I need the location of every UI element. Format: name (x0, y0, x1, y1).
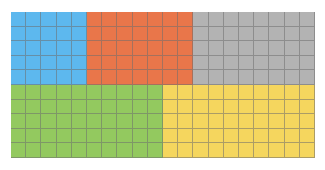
waffle-cell-yellow (209, 114, 224, 129)
waffle-cell-yellow (224, 143, 239, 158)
waffle-cell-gray (209, 70, 224, 85)
waffle-cell-green (72, 100, 87, 115)
waffle-cell-orange (133, 41, 148, 56)
waffle-cell-green (133, 85, 148, 100)
waffle-cell-green (87, 100, 102, 115)
waffle-cell-gray (254, 27, 269, 42)
waffle-cell-orange (133, 27, 148, 42)
waffle-cell-green (11, 143, 26, 158)
waffle-cell-gray (209, 41, 224, 56)
waffle-cell-orange (87, 41, 102, 56)
waffle-cell-orange (163, 27, 178, 42)
waffle-cell-yellow (285, 85, 300, 100)
waffle-cell-gray (300, 41, 315, 56)
waffle-cell-green (72, 85, 87, 100)
waffle-cell-gray (269, 27, 284, 42)
waffle-cell-blue (11, 12, 26, 27)
waffle-cell-blue (57, 70, 72, 85)
waffle-cell-green (133, 129, 148, 144)
waffle-cell-yellow (178, 114, 193, 129)
waffle-cell-yellow (163, 100, 178, 115)
waffle-cell-yellow (224, 114, 239, 129)
waffle-cell-yellow (254, 129, 269, 144)
waffle-cell-green (26, 114, 41, 129)
waffle-cell-blue (11, 41, 26, 56)
waffle-cell-green (87, 85, 102, 100)
waffle-cell-orange (148, 41, 163, 56)
waffle-cell-blue (72, 12, 87, 27)
waffle-cell-orange (87, 56, 102, 71)
waffle-cell-blue (26, 56, 41, 71)
waffle-cell-green (148, 129, 163, 144)
waffle-cell-blue (72, 56, 87, 71)
waffle-cell-gray (300, 27, 315, 42)
waffle-cell-yellow (239, 85, 254, 100)
waffle-cell-yellow (209, 143, 224, 158)
waffle-cell-orange (148, 27, 163, 42)
waffle-cell-green (117, 114, 132, 129)
waffle-cell-yellow (254, 100, 269, 115)
waffle-cell-orange (117, 27, 132, 42)
waffle-cell-yellow (254, 143, 269, 158)
waffle-cell-gray (285, 41, 300, 56)
waffle-cell-blue (57, 12, 72, 27)
waffle-cell-yellow (163, 85, 178, 100)
waffle-cell-gray (285, 12, 300, 27)
waffle-cell-yellow (163, 143, 178, 158)
waffle-cell-gray (239, 56, 254, 71)
waffle-cell-green (57, 114, 72, 129)
waffle-cell-green (26, 85, 41, 100)
waffle-cell-yellow (269, 143, 284, 158)
waffle-cell-orange (102, 27, 117, 42)
waffle-cell-green (102, 85, 117, 100)
waffle-cell-yellow (285, 129, 300, 144)
waffle-cell-green (57, 129, 72, 144)
waffle-cell-gray (300, 56, 315, 71)
waffle-cell-orange (178, 56, 193, 71)
waffle-cell-gray (239, 27, 254, 42)
waffle-cell-yellow (239, 129, 254, 144)
waffle-cell-yellow (300, 114, 315, 129)
waffle-cell-yellow (300, 100, 315, 115)
waffle-cell-yellow (239, 114, 254, 129)
waffle-cell-green (117, 100, 132, 115)
waffle-cell-blue (72, 41, 87, 56)
waffle-cell-blue (11, 56, 26, 71)
waffle-cell-green (117, 143, 132, 158)
waffle-cell-green (102, 129, 117, 144)
waffle-cell-green (72, 129, 87, 144)
waffle-cell-green (148, 100, 163, 115)
waffle-cell-blue (26, 70, 41, 85)
waffle-cell-yellow (300, 143, 315, 158)
waffle-cell-orange (117, 70, 132, 85)
waffle-cell-green (102, 143, 117, 158)
waffle-cell-green (41, 129, 56, 144)
waffle-cell-gray (254, 56, 269, 71)
waffle-cell-yellow (178, 129, 193, 144)
waffle-cell-green (57, 85, 72, 100)
waffle-cell-orange (148, 12, 163, 27)
waffle-cell-green (41, 85, 56, 100)
waffle-cell-gray (254, 70, 269, 85)
waffle-cell-blue (26, 41, 41, 56)
waffle-cell-yellow (163, 129, 178, 144)
waffle-cell-green (41, 100, 56, 115)
waffle-cell-orange (163, 12, 178, 27)
waffle-cell-gray (224, 70, 239, 85)
waffle-cell-orange (163, 41, 178, 56)
waffle-cell-yellow (285, 100, 300, 115)
waffle-cell-yellow (285, 143, 300, 158)
waffle-cell-gray (239, 70, 254, 85)
waffle-cell-orange (102, 70, 117, 85)
waffle-cell-gray (300, 12, 315, 27)
waffle-cell-orange (178, 12, 193, 27)
waffle-cell-yellow (224, 100, 239, 115)
waffle-cell-gray (239, 12, 254, 27)
waffle-cell-blue (41, 12, 56, 27)
waffle-cell-orange (178, 41, 193, 56)
waffle-cell-gray (193, 12, 208, 27)
waffle-cell-green (72, 114, 87, 129)
waffle-cell-gray (209, 27, 224, 42)
waffle-cell-yellow (300, 85, 315, 100)
waffle-cell-blue (26, 27, 41, 42)
